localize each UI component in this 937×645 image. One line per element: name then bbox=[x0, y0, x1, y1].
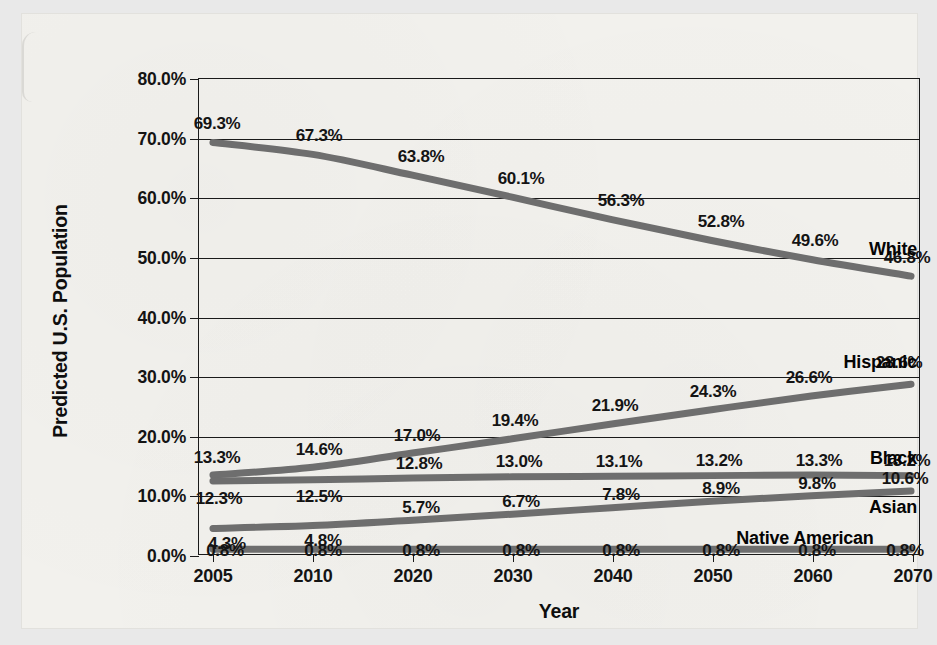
y-tick-mark bbox=[190, 79, 199, 80]
data-label: 0.8% bbox=[502, 541, 540, 561]
y-tick-label: 10.0% bbox=[137, 486, 186, 507]
data-label: 0.8% bbox=[702, 541, 740, 561]
y-tick-mark bbox=[190, 556, 199, 557]
data-label: 13.1% bbox=[596, 452, 643, 472]
series-name-black: Black bbox=[870, 447, 917, 468]
y-tick-mark bbox=[190, 437, 199, 438]
y-tick-mark bbox=[190, 377, 199, 378]
y-tick-label: 50.0% bbox=[137, 247, 186, 268]
y-tick-mark bbox=[190, 318, 199, 319]
y-tick-label: 0.0% bbox=[147, 546, 186, 567]
data-label: 8.9% bbox=[702, 479, 740, 499]
data-label: 13.3% bbox=[796, 451, 843, 471]
data-label: 12.5% bbox=[296, 487, 343, 507]
data-label: 13.2% bbox=[696, 451, 743, 471]
series-line-white bbox=[213, 143, 911, 277]
data-label: 60.1% bbox=[498, 169, 545, 189]
data-label: 0.8% bbox=[602, 541, 640, 561]
x-tick-label: 2070 bbox=[893, 566, 932, 587]
data-label: 6.7% bbox=[502, 492, 540, 512]
data-label: 26.6% bbox=[786, 368, 833, 388]
scanned-page: Predicted U.S. Population Year 0.0%10.0%… bbox=[22, 14, 917, 628]
data-label: 67.3% bbox=[296, 126, 343, 146]
y-tick-label: 20.0% bbox=[137, 426, 186, 447]
data-label: 0.8% bbox=[886, 541, 924, 561]
data-label: 9.8% bbox=[798, 474, 836, 494]
y-tick-label: 70.0% bbox=[137, 128, 186, 149]
x-tick-label: 2005 bbox=[193, 566, 232, 587]
y-tick-label: 60.0% bbox=[137, 188, 186, 209]
series-name-native-american: Native American bbox=[736, 527, 873, 548]
y-tick-mark bbox=[190, 139, 199, 140]
data-label: 5.7% bbox=[402, 498, 440, 518]
plot-area: 0.0%10.0%20.0%30.0%40.0%50.0%60.0%70.0%8… bbox=[198, 78, 920, 555]
series-name-asian: Asian bbox=[869, 496, 917, 517]
x-axis-title: Year bbox=[198, 600, 920, 623]
x-tick-label: 2020 bbox=[393, 566, 432, 587]
data-label: 69.3% bbox=[194, 114, 241, 134]
y-axis-title: Predicted U.S. Population bbox=[49, 204, 72, 437]
x-tick-label: 2030 bbox=[493, 566, 532, 587]
data-label: 19.4% bbox=[492, 411, 539, 431]
y-tick-label: 30.0% bbox=[137, 367, 186, 388]
data-label: 13.0% bbox=[496, 452, 543, 472]
data-label: 12.3% bbox=[196, 489, 243, 509]
x-tick-label: 2060 bbox=[793, 566, 832, 587]
y-tick-mark bbox=[190, 198, 199, 199]
data-label: 0.8% bbox=[304, 541, 342, 561]
data-label: 13.3% bbox=[194, 448, 241, 468]
series-name-hispanic: Hispanic bbox=[844, 351, 917, 372]
data-label: 56.3% bbox=[598, 191, 645, 211]
y-tick-label: 40.0% bbox=[137, 307, 186, 328]
y-tick-mark bbox=[190, 258, 199, 259]
x-tick-label: 2010 bbox=[293, 566, 332, 587]
x-tick-label: 2050 bbox=[693, 566, 732, 587]
series-name-white: White bbox=[869, 238, 917, 259]
data-label: 24.3% bbox=[690, 382, 737, 402]
data-label: 0.8% bbox=[206, 541, 244, 561]
data-label: 49.6% bbox=[792, 231, 839, 251]
data-label: 14.6% bbox=[296, 440, 343, 460]
data-label: 0.8% bbox=[402, 541, 440, 561]
x-tick-label: 2040 bbox=[593, 566, 632, 587]
data-label: 12.8% bbox=[396, 454, 443, 474]
data-label: 17.0% bbox=[394, 426, 441, 446]
data-label: 10.6% bbox=[882, 469, 929, 489]
data-label: 21.9% bbox=[592, 396, 639, 416]
data-label: 7.8% bbox=[602, 485, 640, 505]
line-chart-figure: Predicted U.S. Population Year 0.0%10.0%… bbox=[22, 14, 917, 628]
y-tick-label: 80.0% bbox=[137, 69, 186, 90]
data-label: 63.8% bbox=[398, 147, 445, 167]
data-label: 52.8% bbox=[698, 212, 745, 232]
